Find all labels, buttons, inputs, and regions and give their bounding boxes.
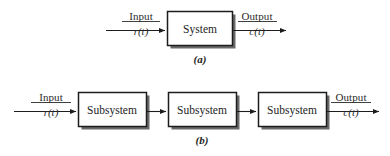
output-label-b: Output [335,92,366,103]
input-label-b: Input [39,92,63,103]
subsystem-block-1-label: Subsystem [87,105,137,117]
input-signal-b: r(t) [44,107,59,118]
input-label-a: Input [129,11,153,22]
subsystem-block-3-label: Subsystem [267,105,317,117]
output-label-a: Output [241,11,272,22]
block-diagram-figure: Input r(t) System Output c(t) (a) Input … [0,0,390,156]
figure-caption-b: (b) [196,135,209,146]
system-block-label: System [183,24,217,36]
output-signal-a: c(t) [249,26,264,37]
input-signal-a: r(t) [134,26,149,37]
output-signal-b: c(t) [343,107,358,118]
figure-caption-a: (a) [194,54,207,65]
subsystem-block-2-label: Subsystem [177,105,227,117]
